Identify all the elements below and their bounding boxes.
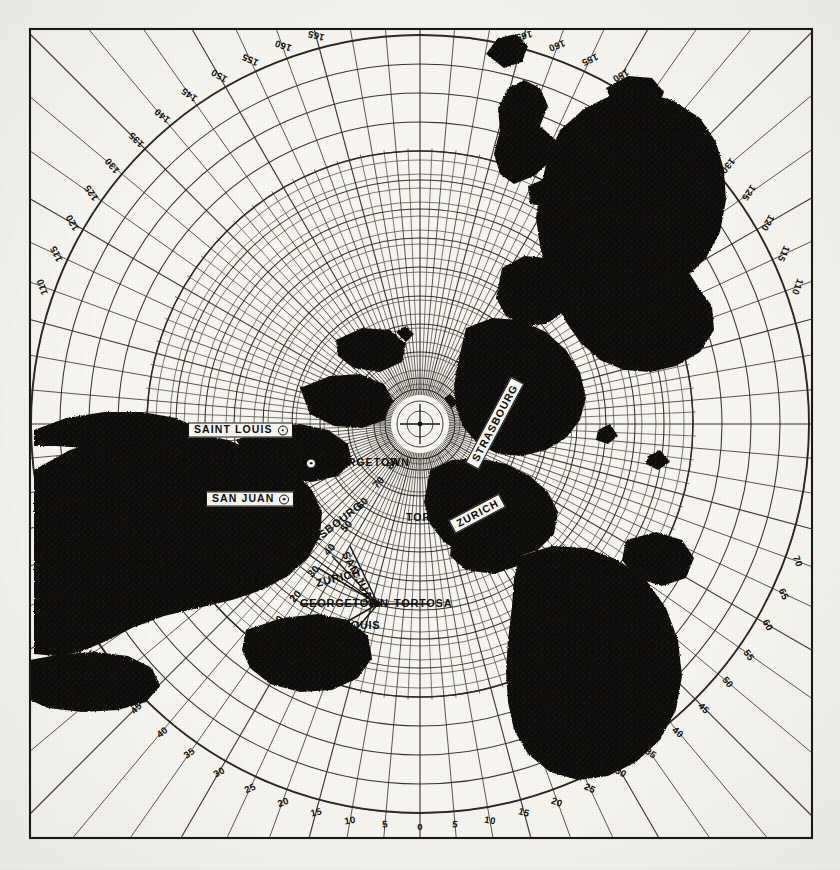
bearing-tick-label: 5: [452, 819, 459, 830]
spoke-label-tortosa: TORTOSA: [394, 597, 452, 609]
station-name: GEORGETOWN: [321, 457, 410, 468]
station-marker-icon: [278, 425, 288, 435]
great-circle-chart: [0, 0, 840, 870]
spoke-label-georgetown: GEORGETOWN: [300, 597, 389, 609]
station-marker-icon: [306, 458, 316, 468]
station-name: SAINT LOUIS: [194, 424, 273, 435]
polar-hub: [385, 389, 455, 459]
station-marker-icon: [279, 494, 289, 504]
bearing-tick-label: 10: [483, 813, 496, 826]
map-page: 0551010151520202525303035354040454550505…: [0, 0, 840, 870]
station-label-georgetown[interactable]: GEORGETOWN: [306, 457, 410, 468]
bearing-tick-label: 10: [344, 813, 357, 826]
spoke-label-saint-louis: SAINT LOUIS: [303, 619, 380, 631]
bearing-tick-label: 0: [417, 821, 423, 832]
station-label-saint-louis[interactable]: SAINT LOUIS: [188, 422, 293, 437]
station-label-san-juan[interactable]: SAN JUAN: [206, 491, 294, 506]
bearing-tick-label: 5: [382, 819, 389, 830]
station-name: SAN JUAN: [212, 493, 274, 504]
